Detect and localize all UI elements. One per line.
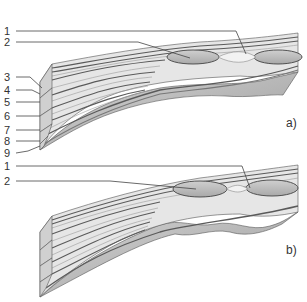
panel-b: 1 2 b) <box>4 160 298 297</box>
panel-b-lens-left <box>173 181 227 197</box>
panel-b-lens-right <box>246 180 298 196</box>
panel-a-lens-left <box>167 50 219 64</box>
callout-a-6: 6 <box>4 110 10 122</box>
callout-a-9: 9 <box>4 147 10 159</box>
callout-a-2: 2 <box>4 36 10 48</box>
layered-structure-diagram: 1 2 3 4 5 6 7 8 9 a) <box>0 0 307 302</box>
callout-a-8: 8 <box>4 135 10 147</box>
callout-a-5: 5 <box>4 96 10 108</box>
panel-a: 1 2 3 4 5 6 7 8 9 a) <box>4 25 302 159</box>
callout-a-3: 3 <box>4 71 10 83</box>
panel-a-lens-right <box>254 50 302 64</box>
callout-a-4: 4 <box>4 84 10 96</box>
panel-b-label: b) <box>286 243 297 257</box>
panel-a-label: a) <box>286 116 297 130</box>
callout-b-2: 2 <box>4 175 10 187</box>
callout-b-1: 1 <box>4 160 10 172</box>
